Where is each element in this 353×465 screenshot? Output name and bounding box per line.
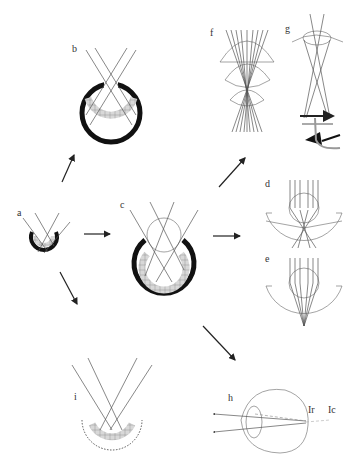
panel-a-label: a [17, 207, 22, 218]
panel-g: g [285, 14, 343, 148]
panel-h: h Ir Ic [214, 389, 336, 453]
panel-i-label: i [74, 391, 77, 402]
panel-c-label: c [120, 199, 125, 210]
panel-b-label: b [72, 43, 77, 54]
panel-b: b [72, 43, 140, 142]
panel-d-label: d [265, 178, 270, 189]
arrow-c-to-f [219, 158, 245, 187]
panel-h-ic-label: Ic [328, 404, 336, 415]
panel-a: a [17, 207, 70, 253]
panel-e: e [265, 253, 342, 326]
panel-f: f [210, 27, 274, 132]
panel-h-ir-label: Ir [308, 404, 315, 415]
panel-h-label: h [228, 392, 233, 403]
panel-d: d [265, 178, 342, 248]
panel-c: c [120, 199, 198, 293]
panel-f-label: f [210, 27, 214, 38]
panel-i: i [72, 358, 152, 450]
panel-g-label: g [285, 23, 290, 34]
arrow-a-to-i [60, 272, 77, 304]
eye-evolution-diagram: b a c f [0, 0, 353, 465]
arrow-a-to-b [62, 155, 74, 182]
panel-e-label: e [265, 253, 270, 264]
arrow-c-to-h [203, 326, 235, 360]
